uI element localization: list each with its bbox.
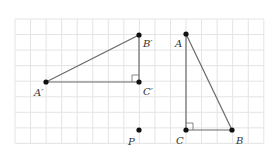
label-p: P xyxy=(127,136,135,147)
label-a-prime: A′ xyxy=(33,87,44,98)
point-c xyxy=(183,127,188,132)
label-c-prime: C′ xyxy=(143,86,154,97)
point-a xyxy=(183,31,188,36)
point-b xyxy=(229,127,234,132)
triangle-abc-outline xyxy=(186,34,232,130)
grid-diagram: A B C A′ B′ C′ P xyxy=(0,0,272,153)
label-c: C xyxy=(176,135,184,146)
label-a: A xyxy=(174,38,182,49)
point-p xyxy=(136,127,141,132)
label-b-prime: B′ xyxy=(142,38,153,49)
point-a-prime xyxy=(43,79,48,84)
triangle-abc xyxy=(186,34,232,130)
label-b: B xyxy=(235,135,243,146)
point-b-prime xyxy=(136,32,141,37)
point-c-prime xyxy=(136,79,141,84)
